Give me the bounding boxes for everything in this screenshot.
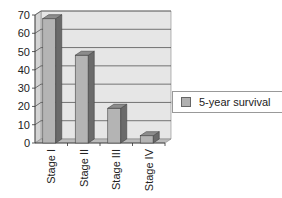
bar: [108, 108, 121, 143]
x-tick-label: Stage IV: [143, 148, 155, 191]
bar-side: [88, 51, 94, 143]
x-tick-label: Stage II: [78, 149, 90, 187]
y-tick-label: 20: [18, 100, 30, 112]
legend-label: 5-year survival: [199, 96, 271, 108]
x-tick-label: Stage I: [45, 149, 57, 184]
y-tick-label: 50: [18, 46, 30, 58]
y-tick-label: 10: [18, 119, 30, 131]
bar: [75, 55, 88, 143]
y-tick-label: 0: [24, 137, 30, 149]
bar: [140, 136, 153, 143]
side-wall: [35, 11, 41, 143]
y-tick-label: 40: [18, 64, 30, 76]
legend-swatch: [181, 97, 191, 107]
legend: 5-year survival: [172, 91, 282, 113]
bar-side: [56, 15, 62, 143]
x-tick-label: Stage III: [110, 149, 122, 190]
bar: [43, 19, 56, 143]
y-tick-label: 70: [18, 9, 30, 21]
y-tick-label: 30: [18, 82, 30, 94]
y-tick-label: 60: [18, 27, 30, 39]
bar-side: [121, 104, 127, 143]
